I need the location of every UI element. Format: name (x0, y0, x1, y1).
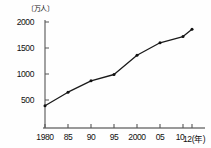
y-tick-label-1000: 1000 (8, 69, 34, 79)
data-point (90, 79, 93, 82)
data-point (44, 104, 47, 107)
data-point (182, 35, 185, 38)
y-axis-ticks (45, 22, 49, 100)
x-tick-label-12-year: 12(年) (183, 132, 211, 144)
data-point (191, 28, 194, 31)
data-point (159, 41, 162, 44)
data-series-line (45, 29, 192, 105)
x-tick-label-85: 85 (57, 132, 79, 142)
x-tick-label-1980: 1980 (31, 132, 59, 142)
x-tick-label-90: 90 (80, 132, 102, 142)
y-tick-label-1500: 1500 (8, 43, 34, 53)
x-tick-label-05: 05 (149, 132, 171, 142)
x-tick-label-95: 95 (103, 132, 125, 142)
data-point (67, 91, 70, 94)
y-tick-label-2000: 2000 (8, 17, 34, 27)
data-point (136, 54, 139, 57)
line-chart: 〔万人〕 2000 1500 1000 500 1980 85 90 95 20… (0, 0, 211, 148)
x-tick-label-2000: 2000 (123, 132, 151, 142)
data-point (113, 73, 116, 76)
y-tick-label-500: 500 (8, 95, 34, 105)
